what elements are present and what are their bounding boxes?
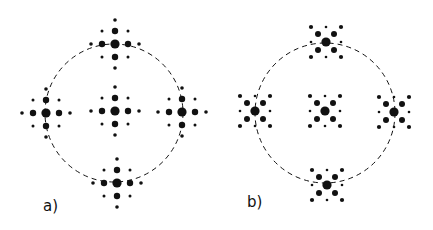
diffraction-spot	[407, 125, 411, 129]
diffraction-spot	[244, 100, 250, 106]
diffraction-spot	[324, 95, 327, 98]
diffraction-spot	[194, 98, 197, 101]
panel-a-label: a)	[43, 197, 58, 215]
diffraction-spot	[338, 124, 342, 128]
diffraction-spot	[168, 98, 171, 101]
diffraction-spot	[113, 66, 117, 70]
diffraction-spot	[315, 47, 321, 53]
diffraction-spot	[308, 124, 312, 128]
diffraction-spot	[326, 199, 329, 202]
diffraction-spot	[315, 31, 321, 37]
diffraction-spot	[127, 180, 133, 186]
spot-cluster-top	[89, 18, 141, 70]
diffraction-spot	[99, 41, 105, 47]
diffraction-spot	[68, 111, 72, 115]
diffraction-spot	[325, 26, 328, 29]
diffraction-spot	[331, 31, 337, 37]
diffraction-spot	[156, 110, 160, 114]
diffraction-spot	[127, 97, 130, 100]
diffraction-spot	[340, 198, 344, 202]
diffraction-spot	[137, 109, 141, 113]
diffraction-spot	[99, 108, 105, 114]
diffraction-spot	[180, 134, 184, 138]
diffraction-spot	[139, 181, 143, 185]
panel-a-cross-pattern	[20, 18, 208, 209]
diffraction-spot	[179, 122, 185, 128]
diffraction-spot	[332, 190, 338, 196]
spot-cluster-left	[238, 94, 272, 128]
diffraction-spot	[310, 41, 313, 44]
diffraction-spot	[308, 94, 312, 98]
diffraction-spot	[254, 95, 257, 98]
diffraction-spot	[166, 109, 172, 115]
diffraction-spot	[101, 56, 104, 59]
spot-cluster-center	[308, 94, 342, 128]
diffraction-spot	[408, 111, 411, 114]
diffraction-spot	[168, 124, 171, 127]
diffraction-spot	[30, 110, 36, 116]
diffraction-spot	[110, 106, 119, 115]
diffraction-spot	[113, 133, 117, 137]
diffraction-spot	[113, 18, 117, 22]
diffraction-spot	[338, 94, 342, 98]
diffraction-spot	[339, 110, 342, 113]
diffraction-spot	[114, 167, 120, 173]
spot-cluster-right	[156, 86, 208, 138]
diffraction-spot	[339, 25, 343, 29]
diffraction-spot	[407, 95, 411, 99]
diffraction-spot	[310, 198, 314, 202]
diffraction-spot	[399, 117, 405, 123]
diffraction-spot	[101, 30, 104, 33]
diffraction-spot	[314, 116, 320, 122]
diffraction-spot	[44, 135, 48, 139]
diffraction-spot	[393, 96, 396, 99]
diffraction-spot	[339, 55, 343, 59]
diffraction-spot	[127, 123, 130, 126]
diffraction-spot	[44, 87, 48, 91]
panel-b-x-pattern	[238, 25, 411, 202]
diffraction-spot	[316, 190, 322, 196]
diffraction-spot	[238, 124, 242, 128]
diffraction-spot	[378, 111, 381, 114]
diffraction-spot	[32, 125, 35, 128]
diffraction-spot	[239, 110, 242, 113]
diffraction-spot	[194, 124, 197, 127]
diffraction-spot	[383, 101, 389, 107]
diffraction-spot	[43, 97, 49, 103]
diffraction-spot	[56, 110, 62, 116]
diffraction-spot	[115, 205, 119, 209]
diffraction-spot	[112, 54, 118, 60]
diffraction-spot	[112, 28, 118, 34]
diffraction-spot	[112, 95, 118, 101]
diffraction-spot	[260, 116, 266, 122]
diffraction-spot	[310, 168, 314, 172]
spot-cluster-top	[309, 25, 343, 59]
diffraction-spot	[101, 123, 104, 126]
diffraction-spot	[114, 193, 120, 199]
diffraction-spot	[324, 125, 327, 128]
diffraction-spot	[314, 100, 320, 106]
diffraction-spot	[268, 124, 272, 128]
diffraction-spot	[58, 99, 61, 102]
diffraction-spot	[180, 86, 184, 90]
diffraction-spot	[330, 100, 336, 106]
diffraction-spot	[204, 110, 208, 114]
diffraction-spot	[377, 125, 381, 129]
diffraction-spot	[115, 157, 119, 161]
diffraction-spot	[41, 108, 50, 117]
spot-cluster-left	[20, 87, 72, 139]
diffraction-spot	[192, 109, 198, 115]
diffraction-spot	[269, 110, 272, 113]
diffraction-spot	[110, 39, 119, 48]
diffraction-spot	[113, 85, 117, 89]
diffraction-spot	[177, 107, 186, 116]
diffraction-spot	[103, 195, 106, 198]
diffraction-spot	[89, 42, 93, 46]
diffraction-spot	[125, 41, 131, 47]
diffraction-spot	[91, 181, 95, 185]
diffraction-spot	[322, 180, 331, 189]
diffraction-spot	[331, 47, 337, 53]
diffraction-spot	[383, 117, 389, 123]
diffraction-spot	[58, 125, 61, 128]
diffraction-spot	[341, 184, 344, 187]
